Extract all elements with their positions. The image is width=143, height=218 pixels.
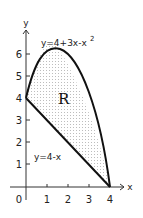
x-tick-3: 3 [86,194,92,205]
x-axis-label: x [127,182,133,192]
x-tick-2: 2 [65,194,71,205]
y-tick-3: 3 [16,115,22,126]
region-diagram: 0 1 2 3 4 1 2 3 4 5 6 y x y=4+3x-x 2 y=4… [0,0,143,218]
region-r-shading [26,43,110,187]
parabola-label: y=4+3x-x [41,38,87,48]
region-label: R [58,90,70,108]
x-tick-0: 0 [16,194,22,205]
y-tick-5: 5 [16,71,22,82]
x-tick-1: 1 [44,194,50,205]
parabola-label-exponent: 2 [90,35,94,43]
y-axis-label: y [23,18,29,28]
y-tick-1: 1 [16,159,22,170]
line-label: y=4-x [34,152,62,162]
y-tick-4: 4 [16,93,22,104]
y-tick-2: 2 [16,137,22,148]
x-tick-4: 4 [107,194,113,205]
y-tick-6: 6 [16,49,22,60]
